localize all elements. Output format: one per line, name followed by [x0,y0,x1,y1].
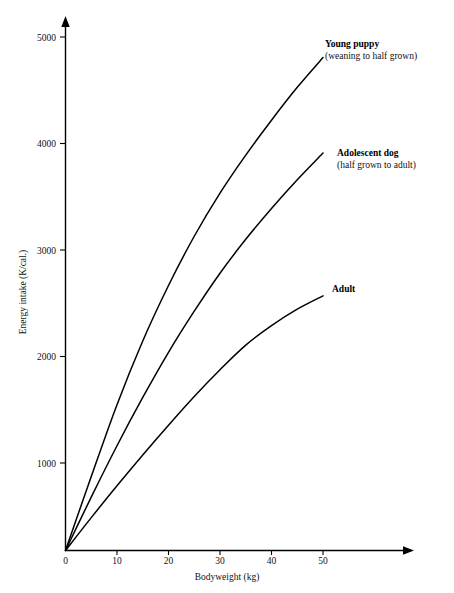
series-sublabel-adolescent-dog: (half grown to adult) [337,160,416,171]
series-label-adult: Adult [332,284,356,294]
y-axis: 5000 4000 3000 2000 1000 Energy intake (… [18,16,70,551]
x-tick-label-0: 0 [63,556,68,566]
x-tick-label-50: 50 [318,556,328,566]
series-annotations: Young puppy (weaning to half grown) Adol… [325,39,417,294]
y-tick-label-2000: 2000 [37,352,56,362]
series-line-adolescent-dog [66,153,324,550]
x-tick-label-20: 20 [164,556,174,566]
y-axis-title: Energy intake (K/cal.) [18,250,29,335]
data-series-group [66,58,324,551]
x-axis-title: Bodyweight (kg) [195,572,260,583]
chart-container: 5000 4000 3000 2000 1000 Energy intake (… [0,0,454,593]
series-label-adolescent-dog: Adolescent dog [337,148,399,158]
series-line-adult [66,296,324,551]
x-tick-label-30: 30 [215,556,225,566]
x-axis-arrowhead [403,546,414,554]
series-sublabel-young-puppy: (weaning to half grown) [325,51,417,62]
energy-intake-line-chart: 5000 4000 3000 2000 1000 Energy intake (… [0,0,454,593]
y-tick-label-4000: 4000 [37,139,56,149]
y-tick-label-3000: 3000 [37,246,56,256]
y-tick-label-1000: 1000 [37,459,56,469]
series-label-young-puppy: Young puppy [325,39,379,49]
x-tick-label-10: 10 [112,556,122,566]
series-line-young-puppy [66,58,324,551]
x-tick-label-40: 40 [267,556,277,566]
y-axis-arrowhead [61,16,69,27]
y-tick-label-5000: 5000 [37,33,56,43]
x-axis: 0 10 20 30 40 50 Bodyweight (kg) [63,546,414,583]
